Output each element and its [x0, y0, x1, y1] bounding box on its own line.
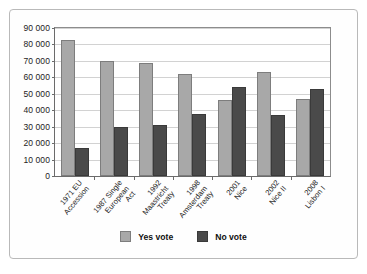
- y-axis-tickmark: [52, 176, 55, 177]
- bar-no: [271, 115, 285, 176]
- bar-group: [296, 28, 324, 176]
- chart-legend: Yes voteNo vote: [9, 231, 358, 242]
- bar-yes: [218, 100, 232, 176]
- bar-yes: [61, 40, 75, 176]
- bar-yes: [178, 74, 192, 176]
- y-axis-tick-label: 40 000: [23, 105, 55, 115]
- y-axis-tick-label: 70 000: [23, 56, 55, 66]
- bar-group: [61, 28, 89, 176]
- chart-figure: 90 00080 00070 00060 00050 00040 00030 0…: [0, 0, 367, 274]
- bar-no: [153, 125, 167, 176]
- x-axis-label: 2001Nice: [225, 179, 249, 203]
- legend-label: No vote: [215, 232, 247, 242]
- y-axis-tick-label: 60 000: [23, 72, 55, 82]
- legend-label: Yes vote: [138, 232, 173, 242]
- bar-no: [114, 127, 128, 176]
- bar-yes: [139, 63, 153, 176]
- legend-swatch: [197, 231, 208, 242]
- bar-yes: [296, 99, 310, 176]
- x-axis-label: 1971 EUAccession: [56, 179, 91, 217]
- bar-yes: [100, 61, 114, 176]
- bar-group: [100, 28, 128, 176]
- y-axis-tick-label: 10 000: [23, 155, 55, 165]
- legend-swatch: [120, 231, 131, 242]
- bar-group: [218, 28, 246, 176]
- y-axis-tick-label: 20 000: [23, 138, 55, 148]
- y-axis-tick-label: 80 000: [23, 39, 55, 49]
- bar-no: [232, 87, 246, 176]
- bar-yes: [257, 72, 271, 176]
- bar-no: [192, 114, 206, 176]
- bar-no: [310, 89, 324, 176]
- plot-wrapper: 90 00080 00070 00060 00050 00040 00030 0…: [9, 9, 358, 259]
- x-axis-label: 2002Nice II: [261, 179, 288, 207]
- bar-no: [75, 148, 89, 176]
- x-axis-label: 1998AmsterdamTreaty: [171, 179, 216, 225]
- bar-group: [178, 28, 206, 176]
- legend-item: No vote: [197, 231, 247, 242]
- legend-item: Yes vote: [120, 231, 173, 242]
- y-axis-tick-label: 30 000: [23, 122, 55, 132]
- y-axis-tick-label: 50 000: [23, 89, 55, 99]
- bar-group: [139, 28, 167, 176]
- bar-groups: [55, 28, 330, 176]
- x-axis-label: 1992MaastrichtTreaty: [134, 179, 176, 222]
- x-axis-label: 1987 SingleEuropeanAct: [92, 179, 138, 226]
- bar-group: [257, 28, 285, 176]
- y-axis-tick-label: 90 000: [23, 23, 55, 33]
- x-axis-label: 2008Lisbon I: [297, 179, 327, 210]
- plot-area: 90 00080 00070 00060 00050 00040 00030 0…: [54, 27, 331, 177]
